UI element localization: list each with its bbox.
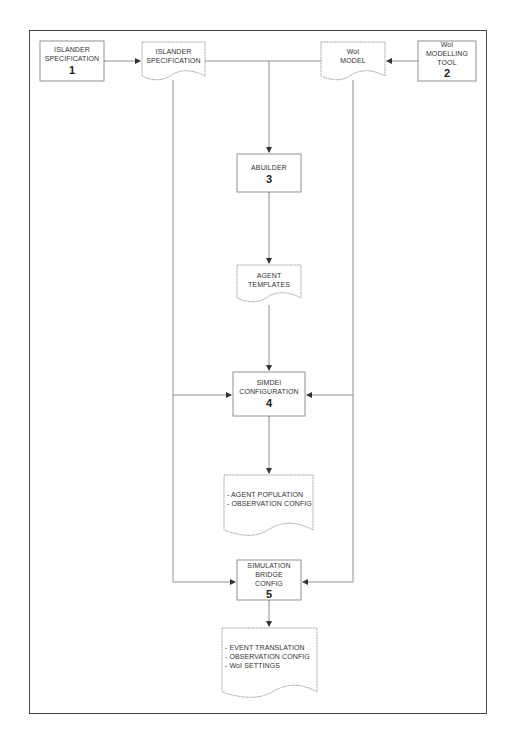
document-label-line: AGENT <box>257 271 282 280</box>
document-label-line: - WoI SETTINGS <box>225 661 280 670</box>
process-label-line: MODELLING <box>426 49 468 58</box>
document-label-line: - EVENT TRANSLATION <box>225 643 305 652</box>
document-label-line: WoI <box>347 47 360 56</box>
process-label-line: SPECIFICATION <box>45 54 99 63</box>
process-label-line: SIMDEI <box>257 378 282 387</box>
process-label-line: ABUILDER <box>251 163 287 172</box>
flow-diagram <box>0 0 510 745</box>
process-woi-modelling-tool: WoI MODELLING TOOL 2 <box>418 40 476 80</box>
process-label-line: SIMULATION <box>247 561 290 570</box>
document-woi-model: WoI MODEL <box>321 47 385 65</box>
process-label-line: CONFIGURATION <box>239 387 299 396</box>
document-label-line: - OBSERVATION CONFIG <box>227 499 312 508</box>
document-agent-population: - AGENT POPULATION - OBSERVATION CONFIG <box>224 490 313 508</box>
process-simdei-configuration: SIMDEI CONFIGURATION 4 <box>233 378 305 410</box>
document-agent-templates: AGENT TEMPLATES <box>237 271 301 289</box>
process-simulation-bridge-config: SIMULATION BRIDGE CONFIG 5 <box>237 561 301 601</box>
process-abuilder: ABUILDER 3 <box>237 163 301 186</box>
document-label-line: - AGENT POPULATION <box>227 490 303 499</box>
document-label-line: ISLANDER <box>156 47 192 56</box>
process-label-line: TOOL <box>437 58 456 67</box>
document-label-line: SPECIFICATION <box>146 56 200 65</box>
document-label-line: - OBSERVATION CONFIG <box>225 652 310 661</box>
process-number: 1 <box>69 64 75 77</box>
document-label-line: TEMPLATES <box>248 280 290 289</box>
document-simulation-outputs: - EVENT TRANSLATION - OBSERVATION CONFIG… <box>222 643 317 670</box>
process-label-line: WoI <box>441 40 454 49</box>
process-number: 4 <box>266 397 272 410</box>
process-label-line: BRIDGE <box>255 570 282 579</box>
process-number: 3 <box>266 173 272 186</box>
document-islander-specification: ISLANDER SPECIFICATION <box>142 47 205 65</box>
process-islander-specification: ISLANDER SPECIFICATION 1 <box>40 45 104 77</box>
document-label-line: MODEL <box>340 56 365 65</box>
process-number: 5 <box>266 588 272 601</box>
process-number: 2 <box>444 67 450 80</box>
process-label-line: CONFIG <box>255 579 283 588</box>
process-label-line: ISLANDER <box>54 45 90 54</box>
